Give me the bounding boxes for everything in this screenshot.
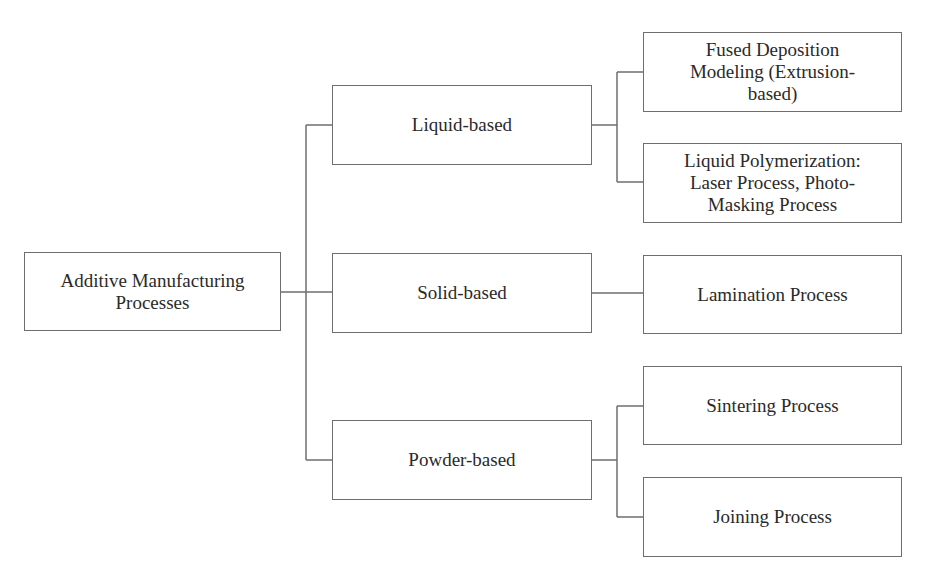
node-solid-based: Solid-based bbox=[332, 253, 592, 333]
node-label: Liquid-based bbox=[412, 114, 512, 136]
node-lamination-process: Lamination Process bbox=[643, 255, 902, 334]
node-label: Additive Manufacturing Processes bbox=[60, 270, 244, 314]
node-label: Liquid Polymerization: Laser Process, Ph… bbox=[684, 150, 861, 216]
node-label: Fused Deposition Modeling (Extrusion- ba… bbox=[690, 39, 855, 105]
node-powder-based: Powder-based bbox=[332, 420, 592, 500]
node-label: Joining Process bbox=[713, 506, 832, 528]
node-label: Sintering Process bbox=[706, 395, 838, 417]
node-joining-process: Joining Process bbox=[643, 477, 902, 557]
node-label: Powder-based bbox=[408, 449, 515, 471]
node-label: Solid-based bbox=[417, 282, 507, 304]
node-additive-manufacturing-processes: Additive Manufacturing Processes bbox=[24, 252, 281, 331]
node-liquid-based: Liquid-based bbox=[332, 85, 592, 165]
node-label: Lamination Process bbox=[697, 284, 847, 306]
node-fused-deposition-modeling: Fused Deposition Modeling (Extrusion- ba… bbox=[643, 32, 902, 112]
node-sintering-process: Sintering Process bbox=[643, 366, 902, 445]
node-liquid-polymerization: Liquid Polymerization: Laser Process, Ph… bbox=[643, 143, 902, 223]
